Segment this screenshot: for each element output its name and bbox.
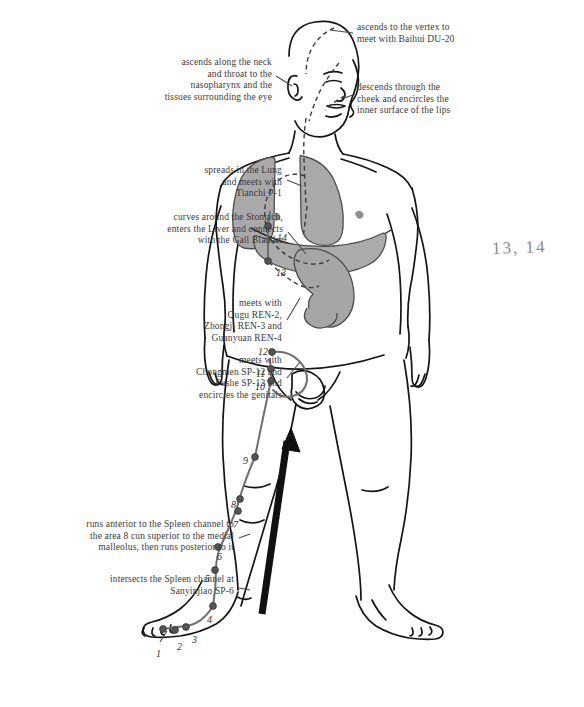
neck-left xyxy=(289,131,295,153)
annotation-neck-throat-nasopharynx: ascends along the neck and throat to the… xyxy=(120,57,272,103)
point-label-3: 3 xyxy=(192,634,197,645)
foot-left-toes xyxy=(142,625,173,636)
leg-right-outer xyxy=(394,360,411,590)
shoulder-right xyxy=(343,154,412,189)
point-label-8: 8 xyxy=(231,499,236,510)
acupoint-dot-1 xyxy=(160,626,167,633)
hand-right xyxy=(410,340,430,387)
calf-left xyxy=(240,520,264,523)
leader-ren xyxy=(287,298,300,320)
channel-scalp-vertex xyxy=(306,28,334,74)
annotation-lung-tianchi: spreads in the Lung and meets with Tianc… xyxy=(110,165,282,200)
eye-line xyxy=(326,81,341,83)
point-label-13: 13 xyxy=(276,267,286,278)
acupoint-dot-4 xyxy=(210,603,217,610)
ear-inner xyxy=(294,84,298,96)
point-label-10: 10 xyxy=(255,381,265,392)
waist-right xyxy=(406,326,409,358)
acupuncture-channel-figure: ascends to the vertex to meet with Baihu… xyxy=(0,0,584,707)
annotation-vertex-baihui: ascends to the vertex to meet with Baihu… xyxy=(357,22,527,45)
handwritten-note: 13, 14 xyxy=(492,237,547,259)
point-label-2: 2 xyxy=(177,641,182,652)
eyebrow-line xyxy=(324,72,342,74)
foot-right-toes xyxy=(410,627,432,636)
nose-line xyxy=(337,88,345,101)
chin-line xyxy=(326,114,341,117)
annotation-stomach-liver-gallbladder: curves around the Stomach, enters the Li… xyxy=(78,212,283,247)
annotation-cheek-lips: descends through the cheek and encircles… xyxy=(357,82,522,117)
leader-sanyinjiao xyxy=(239,588,250,590)
point-label-5: 5 xyxy=(205,573,210,584)
annotation-spleen-channel-malleolus: runs anterior to the Spleen channel to t… xyxy=(22,519,234,554)
leg-right-inner xyxy=(330,406,361,600)
neck-right xyxy=(335,134,343,154)
lung-marking-left xyxy=(355,211,364,219)
point-label-4: 4 xyxy=(207,614,212,625)
point-label-14: 14 xyxy=(277,232,287,243)
acupoint-dot-5 xyxy=(212,567,219,574)
foot-right-top-line xyxy=(372,600,386,620)
arm-right-outer xyxy=(412,208,430,340)
acupoint-dot-8 xyxy=(237,496,244,503)
point-label-7: 7 xyxy=(233,519,238,530)
foot-right-outline xyxy=(356,585,443,639)
acupoint-dots xyxy=(160,223,276,634)
leader-vertex xyxy=(330,30,353,33)
flow-direction-arrow xyxy=(262,428,300,614)
acupoint-dot-2 xyxy=(172,627,179,634)
acupoint-dot-13 xyxy=(265,258,272,265)
point-label-1: 1 xyxy=(156,648,161,659)
leader-sp xyxy=(287,362,300,378)
annotation-ren-points: meets with Qugu REN-2, Zhongji REN-3 and… xyxy=(130,298,282,344)
point-label-12: 12 xyxy=(258,346,268,357)
point-label-6: 6 xyxy=(217,551,222,562)
leader-spleen xyxy=(239,534,250,538)
face-jaw-line xyxy=(295,114,348,137)
acupoint-dot-9 xyxy=(252,454,259,461)
point-label-11: 11 xyxy=(256,368,265,379)
knee-right xyxy=(362,487,388,491)
acupoint-dot-3 xyxy=(183,624,190,631)
knee-left xyxy=(244,484,270,488)
point-label-9: 9 xyxy=(243,455,248,466)
genitals-inner2 xyxy=(299,399,317,403)
groin-right xyxy=(318,372,340,400)
